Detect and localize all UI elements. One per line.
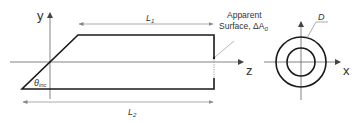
diagram-canvas: y z L1 L2 θinc Apparent Surface, ΔA0 D x [0,0,360,123]
apparent-surface-label-line1: Apparent [227,10,262,20]
diameter-label: D [318,12,325,22]
l2-label: L2 [128,107,137,118]
z-axis-label: z [246,63,253,78]
x-axis-label: x [343,63,350,78]
apparent-surface-label-line2: Surface, ΔA0 [219,21,268,32]
surface-leader [215,41,234,57]
l1-label: L1 [146,13,154,24]
diameter-leader [307,22,328,38]
side-view: y z L1 L2 θinc Apparent Surface, ΔA0 [10,8,268,118]
theta-inc-label: θinc [34,78,47,88]
surface-point [213,57,215,59]
end-view: D x [264,12,350,100]
y-axis-label: y [37,8,44,23]
